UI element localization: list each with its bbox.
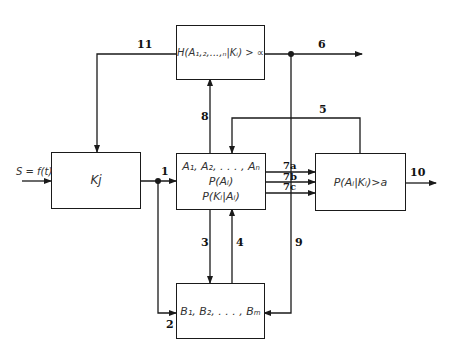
classifier-box: Kj: [51, 152, 141, 209]
edge-label-8: 8: [201, 110, 209, 123]
edge-11: [97, 54, 176, 152]
edge-2: [158, 181, 176, 313]
edge-label-5: 5: [319, 103, 327, 116]
junction-dot-1: [155, 178, 161, 184]
edge-label-10: 10: [410, 166, 425, 179]
hypotheses-line-1: A₁, A₂, . . . , Aₙ: [182, 159, 260, 174]
entropy-box-text: H(A₁,₂,...,ₙ|Kᵢ) > ∝: [177, 45, 264, 60]
hypotheses-box: A₁, A₂, . . . , Aₙ P(Aᵢ) P(Kᵢ|Aᵢ): [176, 153, 266, 210]
features-box: B₁, B₂, . . . , Bₘ: [176, 283, 265, 339]
features-box-text: B₁, B₂, . . . , Bₘ: [180, 304, 260, 319]
edge-label-7c: 7c: [283, 181, 296, 192]
classifier-box-text: Kj: [90, 173, 101, 188]
hypotheses-line-2: P(Aᵢ): [209, 174, 234, 189]
block-diagram: H(A₁,₂,...,ₙ|Kᵢ) > ∝ Kj A₁, A₂, . . . , …: [0, 0, 455, 360]
edge-label-4: 4: [236, 236, 244, 249]
edge-label-1: 1: [161, 165, 169, 178]
hypotheses-line-3: P(Kᵢ|Aᵢ): [202, 189, 240, 204]
edge-label-9: 9: [295, 236, 303, 249]
edge-label-11: 11: [137, 38, 152, 51]
junction-dot-6: [288, 51, 294, 57]
edge-label-6: 6: [318, 38, 326, 51]
entropy-box: H(A₁,₂,...,ₙ|Kᵢ) > ∝: [176, 25, 265, 80]
edge-label-3: 3: [201, 236, 209, 249]
input-signal-label: S = f(t): [16, 166, 52, 177]
edge-label-7a: 7a: [283, 160, 296, 171]
edge-5: [232, 118, 360, 153]
decision-box-text: P(Aᵢ|Kᵢ)>a: [334, 175, 388, 190]
edge-label-2: 2: [166, 318, 174, 331]
decision-box: P(Aᵢ|Kᵢ)>a: [315, 153, 406, 211]
